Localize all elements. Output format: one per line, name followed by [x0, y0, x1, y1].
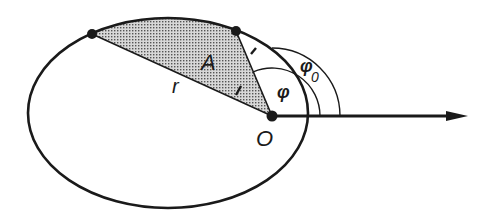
- label-angle-phi: φ: [277, 82, 290, 102]
- orbit-point-2: [231, 26, 241, 36]
- arrow-tick-upper: [251, 48, 256, 54]
- label-area-A: A: [199, 50, 216, 75]
- axis-arrowhead-icon: [446, 111, 468, 121]
- orbit-point-1: [87, 29, 97, 39]
- orbit-diagram: A r O φ φ 0: [0, 0, 497, 223]
- focus-point-O: [267, 111, 278, 122]
- label-angle-phi0-subscript: 0: [311, 69, 319, 85]
- label-focus-O: O: [256, 126, 273, 151]
- label-radius-r: r: [172, 75, 180, 97]
